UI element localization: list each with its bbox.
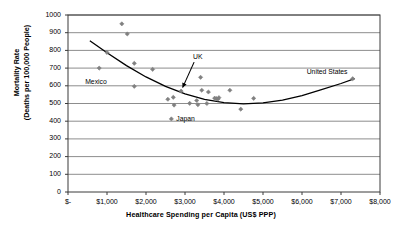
data-point [132,84,136,88]
y-tick-label: 800 [31,46,61,53]
data-point [97,66,101,70]
data-point [188,101,192,105]
data-point [200,88,204,92]
gridlines [68,15,380,174]
x-axis-title: Healthcare Spending per Capita (US$ PPP) [0,210,402,219]
y-tick-label: 300 [31,134,61,141]
annotation-label-united-states: United States [307,68,348,75]
data-point [132,61,136,65]
data-point [205,101,209,105]
uk-annotation-arrow [182,62,194,88]
y-tick-label: 600 [31,81,61,88]
y-tick-label: 400 [31,117,61,124]
data-point [252,96,256,100]
y-tick-label: 0 [31,188,61,195]
annotation-label-uk: UK [193,53,202,60]
y-axis-title: Mortality Rate (Deaths per 100,000 Peopl… [12,18,31,128]
y-tick-label: 500 [31,99,61,106]
y-tick-label: 100 [31,170,61,177]
data-point [228,88,232,92]
data-point [195,98,199,102]
x-tick-label: $8,000 [357,198,402,205]
data-point [166,97,170,101]
y-axis-title-line-2: (Deaths per 100,000 People) [21,18,31,128]
scatter-chart: Mortality Rate (Deaths per 100,000 Peopl… [0,0,402,231]
y-axis-title-line-1: Mortality Rate [12,18,22,128]
y-tick-label: 700 [31,64,61,71]
data-point [239,107,243,111]
data-point [169,117,173,121]
data-point [120,22,124,26]
data-point [199,75,203,79]
y-tick-label: 200 [31,152,61,159]
annotation-label-mexico: Mexico [85,78,107,85]
data-point [171,95,175,99]
y-tick-label: 1000 [31,11,61,18]
annotation-label-japan: Japan [176,115,195,122]
y-tick-label: 900 [31,28,61,35]
data-point [206,90,210,94]
